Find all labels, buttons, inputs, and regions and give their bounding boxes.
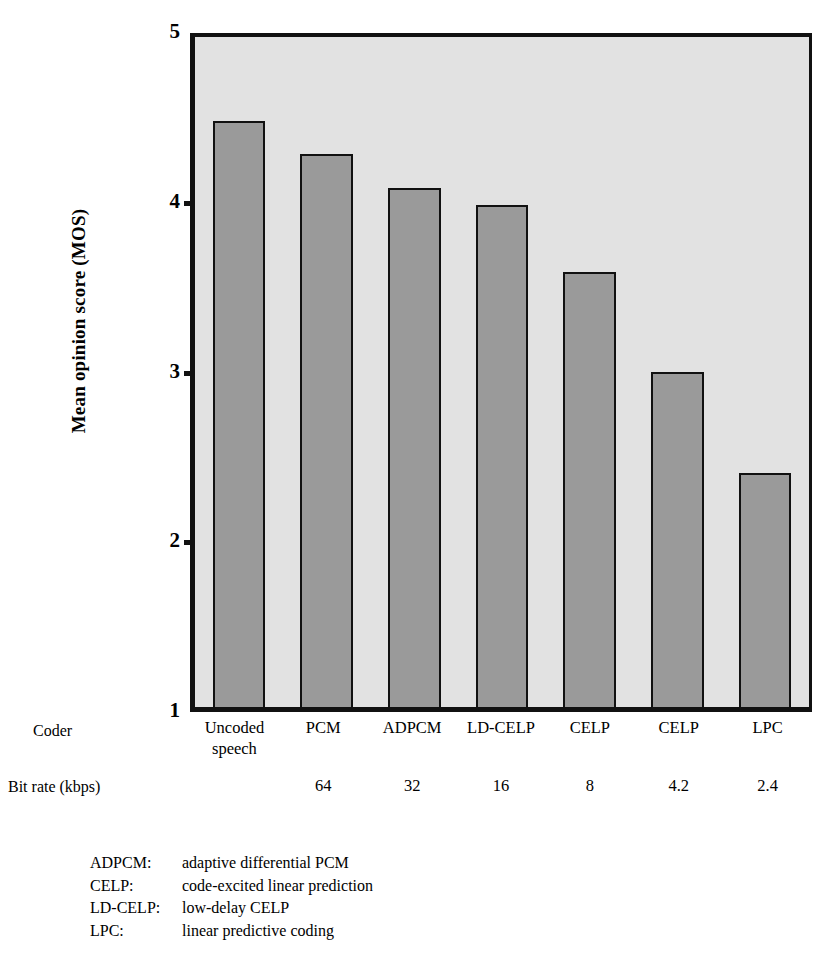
category-label: Uncodedspeech (190, 718, 279, 759)
bar (213, 121, 266, 707)
category-label: CELP (634, 718, 723, 759)
category-label: ADPCM (368, 718, 457, 759)
bitrate-value-row: 64321684.22.4 (190, 776, 812, 796)
bitrate-value: 4.2 (634, 776, 723, 796)
category-label: LPC (723, 718, 812, 759)
y-tick-label: 4 (140, 191, 180, 212)
bitrate-value (190, 776, 279, 796)
legend-entry: ADPCM:adaptive differential PCM (90, 852, 373, 875)
y-tick-label: 3 (140, 361, 180, 382)
bar (476, 205, 529, 708)
bar-slot (721, 37, 809, 707)
bar (739, 473, 792, 708)
category-label-row: UncodedspeechPCMADPCMLD-CELPCELPCELPLPC (190, 718, 812, 759)
coder-row-label: Coder (33, 722, 72, 740)
legend-entry: LD-CELP:low-delay CELP (90, 897, 373, 920)
bar-series (195, 37, 809, 707)
legend-entry: CELP:code-excited linear prediction (90, 875, 373, 898)
bar-slot (458, 37, 546, 707)
bar (300, 154, 353, 707)
bitrate-row-label: Bit rate (kbps) (8, 778, 100, 796)
category-label: CELP (545, 718, 634, 759)
bar-slot (195, 37, 283, 707)
mos-bar-chart-figure: Mean opinion score (MOS) 54321 Coder Bit… (0, 0, 840, 972)
bar-slot (634, 37, 722, 707)
legend-description: adaptive differential PCM (182, 852, 349, 875)
bar (563, 272, 616, 708)
bar (651, 372, 704, 707)
legend-abbreviation: ADPCM: (90, 852, 182, 875)
legend-description: low-delay CELP (182, 897, 289, 920)
bar (388, 188, 441, 707)
category-label: LD-CELP (457, 718, 546, 759)
bitrate-value: 8 (545, 776, 634, 796)
y-axis-title: Mean opinion score (MOS) (68, 156, 90, 486)
y-tick-label: 1 (140, 700, 180, 721)
abbreviation-legend: ADPCM:adaptive differential PCMCELP:code… (90, 852, 373, 943)
legend-abbreviation: LD-CELP: (90, 897, 182, 920)
bitrate-value: 64 (279, 776, 368, 796)
legend-abbreviation: CELP: (90, 875, 182, 898)
y-tick-label: 5 (140, 21, 180, 42)
bitrate-value: 32 (368, 776, 457, 796)
plot-area (190, 33, 812, 712)
bar-slot (283, 37, 371, 707)
legend-abbreviation: LPC: (90, 920, 182, 943)
legend-entry: LPC:linear predictive coding (90, 920, 373, 943)
y-tick-label: 2 (140, 530, 180, 551)
legend-description: code-excited linear prediction (182, 875, 373, 898)
category-label: PCM (279, 718, 368, 759)
bitrate-value: 2.4 (723, 776, 812, 796)
legend-description: linear predictive coding (182, 920, 334, 943)
bar-slot (546, 37, 634, 707)
bitrate-value: 16 (457, 776, 546, 796)
bar-slot (370, 37, 458, 707)
